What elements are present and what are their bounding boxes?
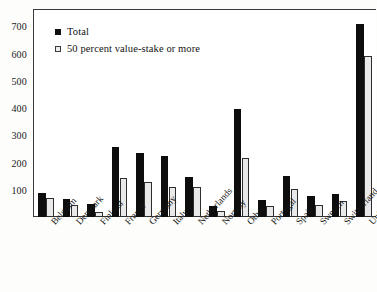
bar-group — [254, 10, 278, 217]
bar-group — [278, 10, 302, 217]
open-square-icon — [55, 46, 61, 52]
y-tick-label: 600 — [11, 48, 27, 59]
x-tick-label: Switzerland — [342, 220, 349, 227]
legend-label-total: Total — [67, 26, 89, 37]
x-tick-label: Other — [245, 220, 252, 227]
y-tick-label: 300 — [11, 130, 27, 141]
legend-item-total: Total — [55, 25, 200, 38]
chart-page: 100200300400500600700 Total 50 percent v… — [0, 0, 377, 292]
x-tick-label: France — [123, 220, 130, 227]
bar-group — [303, 10, 327, 217]
x-tick-label: Belgium — [49, 220, 56, 227]
bar-value-stake — [193, 187, 201, 217]
bar-value-stake — [120, 178, 128, 217]
x-tick-label: Denmark — [74, 220, 81, 227]
bar-group — [229, 10, 253, 217]
x-tick-label: Germany — [147, 220, 154, 227]
y-tick-label: 700 — [11, 21, 27, 32]
x-tick-label: Netherlands — [196, 220, 203, 227]
x-tick-label: Norway — [220, 220, 227, 227]
legend-label-value-stake: 50 percent value-stake or more — [67, 43, 200, 54]
bar-group — [327, 10, 351, 217]
x-tick-label: Sweden — [318, 220, 325, 227]
bar-total — [38, 193, 46, 217]
y-tick-label: 500 — [11, 75, 27, 86]
x-tick-label: United Kingdom — [367, 220, 374, 227]
legend-item-value-stake: 50 percent value-stake or more — [55, 42, 200, 55]
page-footnote — [4, 284, 374, 292]
y-tick-label: 100 — [11, 184, 27, 195]
y-axis: 100200300400500600700 — [0, 0, 33, 226]
bar-value-stake — [144, 182, 152, 217]
bar-total — [356, 24, 364, 217]
x-tick-label: Finland — [98, 220, 105, 227]
y-tick-label: 400 — [11, 103, 27, 114]
x-tick-label: Portugal — [269, 220, 276, 227]
x-tick-label: Spain — [294, 220, 301, 227]
filled-square-icon — [55, 29, 61, 35]
y-tick-label: 200 — [11, 157, 27, 168]
x-axis: BelgiumDenmarkFinlandFranceGermanyItalyN… — [34, 218, 376, 288]
chart-legend: Total 50 percent value-stake or more — [55, 25, 200, 59]
x-tick-label: Italy — [171, 220, 178, 227]
